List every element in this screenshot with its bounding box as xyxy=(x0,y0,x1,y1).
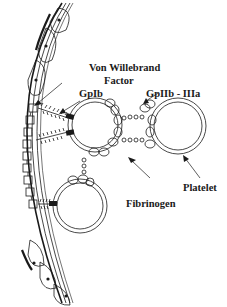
subendothelium-squares xyxy=(23,104,37,208)
fibrinogen-bridges xyxy=(82,115,144,174)
label-gpib: GpIb xyxy=(79,88,103,99)
label-platelet: Platelet xyxy=(183,182,217,193)
platelet-adhesion-diagram: Von Willebrand Factor GpIb GpIIb - IIIa … xyxy=(0,0,227,307)
diagram-graphic xyxy=(0,0,227,307)
gpiibiiia-receptors xyxy=(68,99,156,186)
label-factor: Factor xyxy=(104,75,134,86)
vessel-wall xyxy=(27,3,73,305)
label-fibrinogen: Fibrinogen xyxy=(126,198,176,209)
label-von-willebrand: Von Willebrand xyxy=(89,62,160,73)
platelet-2 xyxy=(150,98,206,154)
platelet-1 xyxy=(68,98,122,152)
platelet-3 xyxy=(53,179,107,233)
label-gpiibiiia: GpIIb - IIIa xyxy=(146,88,200,99)
